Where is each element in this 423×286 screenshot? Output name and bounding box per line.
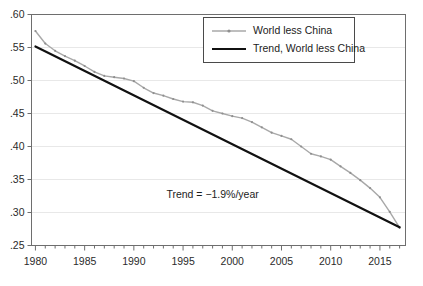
data-point [359,179,361,181]
data-point [133,80,135,82]
data-point [74,60,76,62]
x-tick-label-2: 1990 [122,255,146,267]
x-tick-label-6: 2010 [319,255,343,267]
x-tick-label-7: 2015 [368,255,392,267]
legend-label-world-less-china: World less China [253,24,332,36]
data-point [349,172,351,174]
data-point [290,138,292,140]
data-point [271,132,273,134]
data-point [379,196,381,198]
y-tick-label-2: .35 [10,173,25,185]
data-point [369,187,371,189]
data-point [261,126,263,128]
data-point [389,211,391,213]
x-tick-label-1: 1985 [73,255,97,267]
data-point [54,50,56,52]
chart-canvas: .25.30.35.40.45.50.55.60 198019851990199… [0,0,423,286]
y-tick-label-1: .30 [10,206,25,218]
data-point [162,95,164,97]
trend-annotation: Trend = −1.9%/year [166,188,259,200]
data-point [280,135,282,137]
data-point [251,121,253,123]
data-point [320,155,322,157]
x-tick-label-0: 1980 [24,255,48,267]
y-tick-label-7: .60 [10,8,25,20]
y-tick-label-6: .55 [10,41,25,53]
data-point [103,75,105,77]
data-point [172,98,174,100]
data-point [300,145,302,147]
data-point [192,101,194,103]
x-tick-label-3: 1995 [171,255,195,267]
legend-label-trend-world-less-china: Trend, World less China [253,42,365,54]
y-tick-label-0: .25 [10,239,25,251]
data-point [182,101,184,103]
data-point [44,42,46,44]
data-point [241,117,243,119]
data-point [34,30,36,32]
legend-marker-icon [227,29,230,32]
data-point [310,153,312,155]
y-tick-label-4: .45 [10,107,25,119]
x-tick-label-5: 2005 [270,255,294,267]
legend: World less China Trend, World less China [204,18,366,63]
data-point [211,110,213,112]
data-point [339,165,341,167]
data-point [221,112,223,114]
y-tick-label-5: .50 [10,74,25,86]
data-point [231,115,233,117]
data-point [113,76,115,78]
data-point [152,92,154,94]
chart-figure: .25.30.35.40.45.50.55.60 198019851990199… [0,0,423,286]
data-point [143,87,145,89]
data-point [84,65,86,67]
data-point [202,104,204,106]
y-tick-label-3: .40 [10,140,25,152]
data-point [123,77,125,79]
data-point [64,55,66,57]
x-tick-label-4: 2000 [221,255,245,267]
data-point [93,71,95,73]
data-point [330,159,332,161]
